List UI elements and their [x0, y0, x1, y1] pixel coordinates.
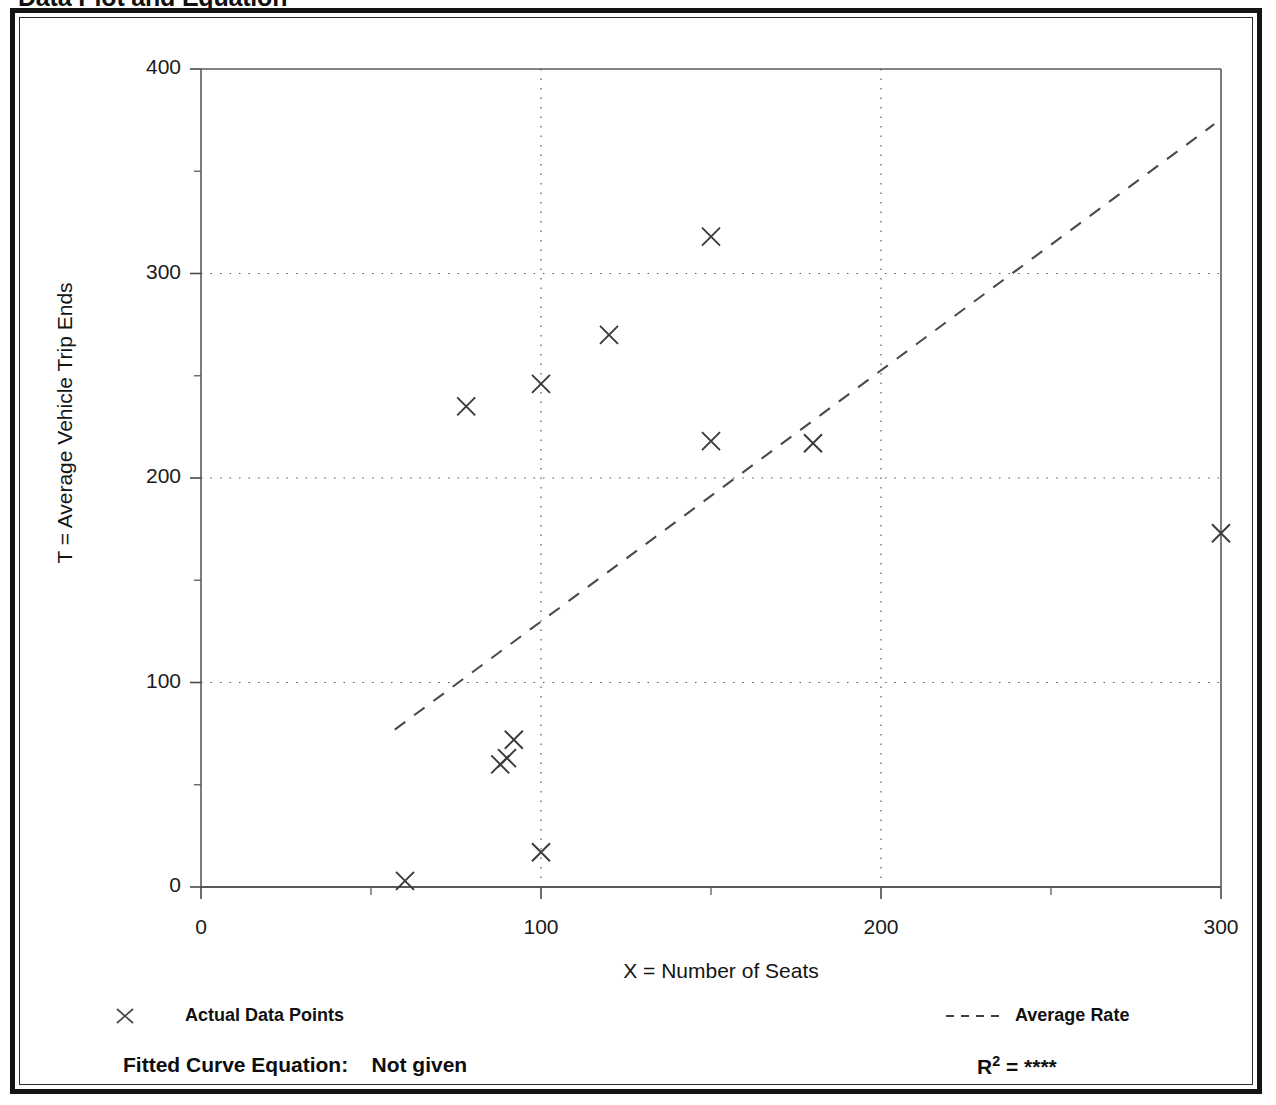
- dashed-line-icon: [945, 1006, 1001, 1026]
- legend-item-average-rate: Average Rate: [945, 1005, 1129, 1026]
- y-tick-label: 100: [101, 669, 181, 693]
- y-tick-label: 400: [101, 55, 181, 79]
- x-tick-label: 100: [501, 915, 581, 939]
- y-tick-label: 0: [101, 873, 181, 897]
- fitted-curve-value: Not given: [372, 1053, 468, 1076]
- figure-frame: T = Average Vehicle Trip Ends X = Number…: [10, 8, 1262, 1094]
- x-tick-label: 0: [161, 915, 241, 939]
- plot-area: [190, 69, 1230, 899]
- x-tick-label: 200: [841, 915, 921, 939]
- y-tick-label: 200: [101, 464, 181, 488]
- x-marker-icon: [115, 1006, 171, 1026]
- r-value: ****: [1024, 1055, 1057, 1078]
- y-axis-title: T = Average Vehicle Trip Ends: [53, 253, 77, 593]
- legend-label-average-rate: Average Rate: [1015, 1005, 1129, 1026]
- r-equals: =: [1000, 1055, 1024, 1078]
- r-exponent: 2: [992, 1053, 1000, 1069]
- legend-item-actual-data-points: Actual Data Points: [115, 1005, 344, 1026]
- legend-label-actual-data-points: Actual Data Points: [185, 1005, 344, 1026]
- r-label: R: [977, 1055, 992, 1078]
- fitted-curve-label: Fitted Curve Equation:: [123, 1053, 348, 1076]
- r-squared-value: R2 = ****: [977, 1053, 1057, 1079]
- x-axis-title: X = Number of Seats: [211, 959, 1231, 983]
- equation-row: Fitted Curve Equation: Not given R2 = **…: [15, 1053, 1267, 1093]
- fitted-curve-equation: Fitted Curve Equation: Not given: [123, 1053, 467, 1077]
- y-tick-label: 300: [101, 260, 181, 284]
- x-tick-label: 300: [1181, 915, 1261, 939]
